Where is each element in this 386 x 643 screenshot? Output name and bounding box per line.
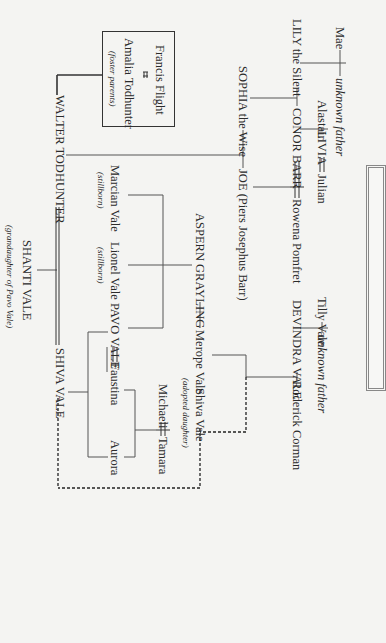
person-shanti: SHANTI VALE: [20, 240, 34, 320]
person-shiva: SHIVA VALE: [53, 348, 67, 419]
shanti-note: (grandaughter of Pavo Vale): [5, 225, 15, 328]
person-faustina: Faustina: [108, 363, 122, 405]
person-aurora: Aurora: [108, 440, 122, 475]
person-lily: LILY the Silent: [290, 19, 304, 96]
person-sophia: SOPHIA the Wise: [236, 66, 250, 157]
shiva-adopted-note: (adopted daughter): [181, 378, 191, 448]
person-aspern: ASPERN GRAYLING: [193, 213, 207, 328]
person-michaeli: Michaeli: [156, 384, 170, 428]
person-tamara: Tamara: [156, 437, 170, 474]
marcian-note: (stillborn): [96, 172, 106, 209]
person-livia: LIVIA: [315, 131, 329, 165]
person-amalia: Amalia Todhunter: [122, 38, 136, 129]
person-conor: CONOR BARR: [290, 108, 304, 189]
person-merope: Merope Vale: [193, 330, 207, 394]
person-julian: Julian: [315, 174, 329, 204]
person-rowena: Rowena Pomfret: [290, 199, 304, 283]
person-mae: Mae: [333, 27, 347, 49]
foster-parents-note: (foster parents): [108, 51, 118, 106]
person-francis: Francis Flight: [153, 45, 167, 115]
person-marcian: Marcian Vale: [108, 165, 122, 232]
person-lionel: Lionel Vale: [108, 242, 122, 300]
person-unknown-father-1: unknown father: [333, 78, 347, 156]
empty-title-box: [366, 165, 386, 391]
person-walter: WALTER TODHUNTER: [53, 95, 67, 224]
lionel-note: (stillborn): [96, 247, 106, 284]
person-shiva-adopted: Shiva Vale: [193, 388, 207, 442]
person-joe: JOE (Piers Josephus Barr): [236, 169, 250, 301]
person-roderick: Roderick Corman: [290, 381, 304, 470]
person-unknown-father-2: unknown father: [315, 335, 329, 413]
person-pavo: PAVO VALE: [108, 303, 122, 369]
